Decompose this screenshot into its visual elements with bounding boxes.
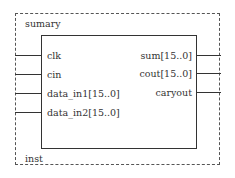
instance-name-label: inst [25, 153, 43, 164]
input-wire-data-in1[interactable] [15, 93, 41, 94]
input-wire-data-in2[interactable] [15, 112, 41, 113]
input-port-data-in2: data_in2[15..0] [47, 107, 120, 118]
input-port-cin: cin [47, 69, 61, 80]
block-name-label: sumary [25, 18, 61, 29]
input-wire-clk[interactable] [15, 55, 41, 56]
output-wire-sum[interactable] [196, 55, 221, 56]
output-wire-cout[interactable] [196, 73, 221, 74]
input-wire-cin[interactable] [15, 74, 41, 75]
input-port-clk: clk [47, 50, 61, 61]
output-port-cout: cout[15..0] [139, 68, 192, 79]
output-wire-caryout[interactable] [196, 92, 221, 93]
output-port-sum: sum[15..0] [140, 50, 192, 61]
output-port-caryout: caryout [155, 87, 192, 98]
input-port-data-in1: data_in1[15..0] [47, 88, 120, 99]
